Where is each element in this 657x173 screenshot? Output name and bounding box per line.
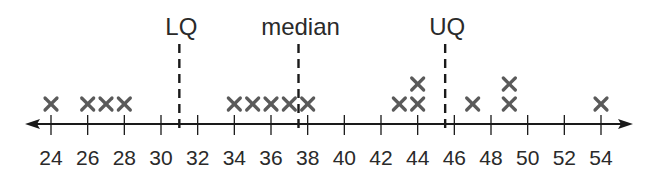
tick-label: 24 — [39, 146, 63, 169]
reference-label-median: median — [261, 13, 340, 40]
dot-plot: 24262830323436384042444648505254 LQmedia… — [0, 0, 657, 173]
tick-label: 50 — [516, 146, 539, 169]
tick-label: 30 — [149, 146, 172, 169]
data-marks — [45, 78, 607, 110]
x-mark-icon — [118, 98, 130, 110]
tick-label: 44 — [406, 146, 430, 169]
tick-label: 46 — [443, 146, 466, 169]
tick-label: 40 — [333, 146, 356, 169]
x-mark-icon — [467, 98, 479, 110]
x-mark-icon — [595, 98, 607, 110]
x-mark-icon — [45, 98, 57, 110]
x-mark-icon — [412, 78, 424, 90]
number-line-axis — [25, 119, 633, 129]
quartile-reference-lines: LQmedianUQ — [165, 13, 465, 134]
tick-label: 28 — [113, 146, 136, 169]
tick-label: 38 — [296, 146, 319, 169]
x-mark-icon — [503, 78, 515, 90]
tick-label: 54 — [589, 146, 613, 169]
x-mark-icon — [265, 98, 277, 110]
tick-label: 26 — [76, 146, 99, 169]
x-mark-icon — [302, 98, 314, 110]
reference-label-lq: LQ — [165, 13, 197, 40]
tick-label: 42 — [369, 146, 392, 169]
x-mark-icon — [100, 98, 112, 110]
axis-tick-labels: 24262830323436384042444648505254 — [39, 146, 613, 169]
x-mark-icon — [503, 98, 515, 110]
tick-label: 48 — [479, 146, 502, 169]
x-mark-icon — [393, 98, 405, 110]
x-mark-icon — [247, 98, 259, 110]
tick-label: 36 — [259, 146, 282, 169]
tick-label: 32 — [186, 146, 209, 169]
reference-label-uq: UQ — [429, 13, 465, 40]
tick-label: 52 — [553, 146, 576, 169]
dot-plot-svg: 24262830323436384042444648505254 LQmedia… — [0, 0, 657, 173]
x-mark-icon — [228, 98, 240, 110]
tick-label: 34 — [223, 146, 247, 169]
x-mark-icon — [82, 98, 94, 110]
x-mark-icon — [412, 98, 424, 110]
x-mark-icon — [283, 98, 295, 110]
